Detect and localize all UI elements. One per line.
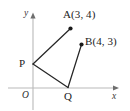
vertex-q-label: Q xyxy=(64,91,72,102)
segment-p-q xyxy=(33,64,68,88)
segment-q-b xyxy=(68,45,82,88)
x-axis-label: x xyxy=(112,92,116,102)
origin-label: O xyxy=(22,91,29,101)
x-axis-arrowhead xyxy=(113,85,119,90)
y-axis-label: y xyxy=(24,9,28,19)
point-a-label: A(3, 4) xyxy=(63,9,95,20)
vertex-p-label: P xyxy=(19,58,25,69)
segment-p-a xyxy=(33,29,71,65)
point-b-marker xyxy=(79,42,83,46)
point-a-marker xyxy=(68,26,72,30)
point-b-label: B(4, 3) xyxy=(85,36,117,47)
coordinate-figure: A(3, 4) B(4, 3) P Q O y x xyxy=(0,0,130,111)
y-axis-arrowhead xyxy=(30,13,35,19)
